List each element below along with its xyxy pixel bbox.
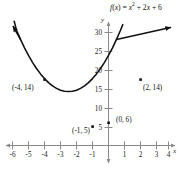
x-tick-label-neg3: -3 xyxy=(53,152,69,159)
graph-figure: f(x) = x2 + 2x + 6 y x 5 10 15 20 25 30 … xyxy=(0,0,181,170)
equation-equals: = xyxy=(121,3,129,12)
equation-plus-two-x: + 2 xyxy=(135,3,147,12)
x-tick-label-neg4: -4 xyxy=(37,152,53,159)
curve-left-arrow xyxy=(13,27,20,40)
y-tick-label-20: 20 xyxy=(86,68,102,75)
point-dot-neg4-14 xyxy=(43,78,46,81)
x-tick-label-4: 4 xyxy=(161,152,177,159)
function-equation-label: f(x) = x2 + 2x + 6 xyxy=(110,4,162,12)
x-tick-label-2: 2 xyxy=(133,152,149,159)
x-tick-label-neg5: -5 xyxy=(21,152,37,159)
y-tick-label-10: 10 xyxy=(86,106,102,113)
x-tick-label-1: 1 xyxy=(117,152,133,159)
point-label-0-6: (0, 6) xyxy=(116,117,132,124)
y-tick-label-30: 30 xyxy=(86,30,102,37)
point-dot-0-6 xyxy=(107,122,110,125)
y-tick-label-15: 15 xyxy=(86,87,102,94)
point-label-neg1-5: (-1, 5) xyxy=(72,128,90,135)
point-label-2-14: (2, 14) xyxy=(143,85,162,92)
point-label-neg4-14: (-4, 14) xyxy=(12,85,34,92)
y-axis-label: y xyxy=(101,17,104,24)
parabola-curve xyxy=(14,21,123,91)
x-tick-label-neg2: -2 xyxy=(69,152,85,159)
curve-right-arrow xyxy=(117,28,171,40)
y-tick-label-25: 25 xyxy=(86,49,102,56)
x-tick-label-neg6: -6 xyxy=(5,152,21,159)
x-tick-label-neg1: -1 xyxy=(85,152,101,159)
point-dot-2-14 xyxy=(139,78,142,81)
equation-plus-six: + 6 xyxy=(150,3,162,12)
